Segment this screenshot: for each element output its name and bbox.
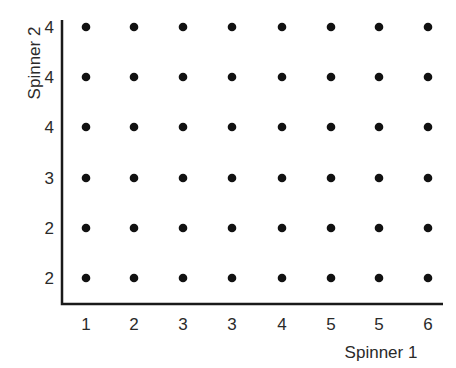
x-tick-label: 1 (81, 315, 90, 334)
data-point (278, 274, 287, 283)
data-point (130, 123, 139, 132)
y-axis-tick-labels: 223444 (45, 18, 54, 288)
data-point (130, 23, 139, 32)
data-point (82, 73, 91, 82)
data-point (424, 123, 433, 132)
data-point (228, 23, 237, 32)
data-point (228, 123, 237, 132)
data-point (228, 73, 237, 82)
data-point (278, 174, 287, 183)
data-point (130, 174, 139, 183)
x-tick-label: 2 (129, 315, 138, 334)
y-tick-label: 2 (45, 219, 54, 238)
data-point (424, 174, 433, 183)
data-point (327, 23, 336, 32)
data-point (82, 274, 91, 283)
y-axis-title: Spinner 2 (25, 27, 44, 100)
data-point (82, 224, 91, 233)
x-tick-label: 4 (277, 315, 286, 334)
data-point (327, 123, 336, 132)
data-point (375, 23, 384, 32)
data-point (424, 73, 433, 82)
data-point (82, 123, 91, 132)
data-point (82, 174, 91, 183)
x-tick-label: 3 (227, 315, 236, 334)
data-point (130, 73, 139, 82)
y-tick-label: 4 (45, 118, 54, 137)
scatter-chart: 223444 12334556 Spinner 2 Spinner 1 (0, 0, 456, 368)
data-point (179, 23, 188, 32)
data-point (278, 23, 287, 32)
data-point (424, 224, 433, 233)
axes (62, 20, 443, 304)
data-point (278, 73, 287, 82)
data-point (278, 123, 287, 132)
y-tick-label: 4 (45, 18, 54, 37)
data-point (375, 274, 384, 283)
data-point (179, 174, 188, 183)
x-tick-label: 3 (178, 315, 187, 334)
data-point (179, 224, 188, 233)
x-tick-label: 6 (423, 315, 432, 334)
data-point (327, 224, 336, 233)
data-point (228, 224, 237, 233)
x-tick-label: 5 (326, 315, 335, 334)
data-point (278, 224, 287, 233)
y-tick-label: 2 (45, 269, 54, 288)
data-point (82, 23, 91, 32)
x-axis-tick-labels: 12334556 (81, 315, 432, 334)
data-point (375, 174, 384, 183)
data-point (228, 274, 237, 283)
data-point (424, 23, 433, 32)
y-tick-label: 3 (45, 169, 54, 188)
data-point (327, 73, 336, 82)
x-axis-title: Spinner 1 (345, 343, 418, 362)
data-points (82, 23, 433, 283)
data-point (130, 274, 139, 283)
data-point (375, 73, 384, 82)
x-tick-label: 5 (374, 315, 383, 334)
data-point (228, 174, 237, 183)
data-point (130, 224, 139, 233)
data-point (424, 274, 433, 283)
data-point (179, 73, 188, 82)
data-point (327, 174, 336, 183)
data-point (179, 274, 188, 283)
y-tick-label: 4 (45, 68, 54, 87)
data-point (375, 224, 384, 233)
data-point (327, 274, 336, 283)
data-point (375, 123, 384, 132)
data-point (179, 123, 188, 132)
